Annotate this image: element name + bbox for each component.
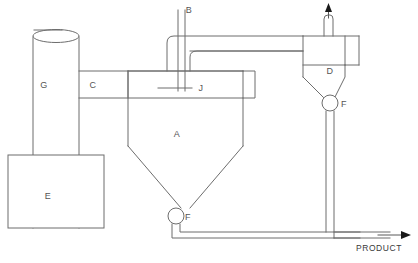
cyclone-cone-left bbox=[303, 77, 327, 101]
equipment-tag-f-cyclone: F bbox=[341, 99, 347, 109]
equipment-tag-f-vessel: F bbox=[185, 212, 191, 222]
equipment-b-feed-inlet-pipe bbox=[178, 10, 185, 91]
equipment-a-fluidized-bed-vessel bbox=[128, 71, 255, 208]
equipment-tag-j: J bbox=[199, 83, 204, 93]
equipment-tag-g: G bbox=[40, 80, 47, 90]
vessel-side-nozzle bbox=[243, 71, 255, 98]
upper-transfer-duct bbox=[167, 36, 303, 71]
pfd-canvas: G C B J A D E F F PRODUCT bbox=[0, 0, 418, 263]
riser-open-top-ellipse bbox=[33, 30, 79, 43]
product-arrow-head bbox=[401, 231, 411, 239]
equipment-tag-a: A bbox=[174, 129, 180, 139]
cyclone-cone-right bbox=[333, 65, 345, 101]
valve-vessel-body bbox=[168, 208, 184, 224]
valve-vessel-downpipe-inner bbox=[180, 224, 360, 232]
process-flow-diagram: G C B J A D E F F PRODUCT bbox=[0, 0, 418, 263]
transfer-duct-inner-wall bbox=[190, 51, 303, 71]
equipment-tag-c: C bbox=[90, 80, 97, 90]
valve-vessel-downpipe-outer bbox=[172, 224, 360, 238]
equipment-tag-d: D bbox=[327, 66, 334, 76]
stream-label-product: PRODUCT bbox=[356, 243, 402, 253]
equipment-tag-e: E bbox=[45, 191, 51, 201]
equipment-f-valve-cyclone bbox=[322, 95, 338, 238]
base-tank-body bbox=[8, 155, 104, 228]
vent-arrow-head bbox=[325, 3, 332, 12]
equipment-e-base-tank bbox=[8, 155, 104, 228]
transfer-duct-outer-wall bbox=[167, 36, 303, 71]
equipment-d-cyclone-separator bbox=[303, 15, 359, 101]
equipment-c-connecting-duct bbox=[79, 71, 243, 98]
valve-cyclone-body bbox=[322, 95, 338, 111]
vessel-cone-right bbox=[190, 146, 243, 208]
stream-product-outlet bbox=[334, 231, 411, 239]
vessel-cone-left bbox=[128, 146, 181, 208]
equipment-f-valve-vessel bbox=[168, 208, 360, 238]
equipment-tag-b: B bbox=[186, 5, 192, 15]
